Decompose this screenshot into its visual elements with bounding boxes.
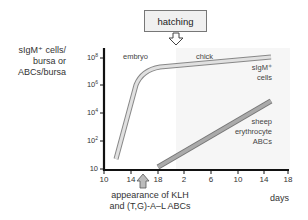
- appearance-annotation: appearance of KLH and (T,G)-A–L ABCs: [100, 190, 200, 212]
- appearance-annotation-line2: and (T,G)-A–L ABCs: [100, 201, 200, 212]
- y-tick-1e4: 104: [78, 108, 98, 117]
- y-tick-1e6: 106: [78, 80, 98, 89]
- y-axis-label: sIgM⁺ cells/ bursa or ABCs/bursa: [2, 45, 66, 78]
- x-tick-chick-6: 6: [201, 175, 221, 184]
- x-tick-chick-18: 18: [278, 175, 298, 184]
- sigm-cells-label-line1: sIgM⁺: [240, 63, 272, 73]
- chart-canvas: [0, 0, 308, 220]
- y-axis-label-line2: bursa or: [2, 56, 66, 67]
- x-axis-label: days: [270, 193, 289, 203]
- hatching-label: hatching: [158, 16, 194, 27]
- sigm-cells-label: sIgM⁺ cells: [240, 63, 272, 83]
- y-tick-1e2: 102: [78, 136, 98, 145]
- x-tick-embryo-10: 10: [94, 175, 114, 184]
- appearance-annotation-line1: appearance of KLH: [100, 190, 200, 201]
- embryo-label: embryo: [123, 52, 148, 61]
- x-tick-embryo-14: 14: [121, 175, 141, 184]
- y-axis-label-line1: sIgM⁺ cells/: [2, 45, 66, 56]
- chick-label: chick: [196, 52, 213, 61]
- srbc-label-line1: sheep: [226, 117, 272, 127]
- x-tick-embryo-18: 18: [148, 175, 168, 184]
- x-tick-chick-10: 10: [228, 175, 248, 184]
- y-tick-1e8: 108: [78, 53, 98, 62]
- hatching-arrow-icon: [169, 33, 183, 45]
- srbc-label-line3: ABCs: [226, 137, 272, 147]
- y-tick-10: 10: [78, 164, 98, 173]
- hatching-label-box: hatching: [144, 10, 207, 32]
- x-tick-chick-2: 2: [174, 175, 194, 184]
- x-tick-chick-14: 14: [254, 175, 274, 184]
- srbc-label-line2: erythrocyte: [226, 127, 272, 137]
- y-axis-label-line3: ABCs/bursa: [2, 67, 66, 78]
- sigm-cells-label-line2: cells: [240, 73, 272, 83]
- srbc-abcs-label: sheep erythrocyte ABCs: [226, 117, 272, 147]
